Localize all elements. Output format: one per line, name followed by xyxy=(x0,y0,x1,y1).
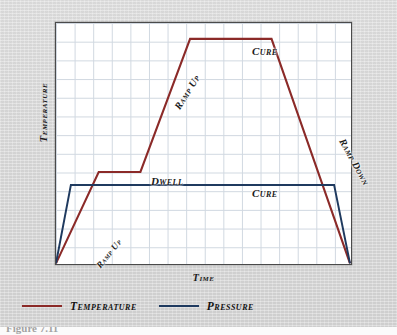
x-axis-title: Time xyxy=(55,272,352,283)
curve-canvas xyxy=(56,23,351,264)
legend-label-temperature: Temperature xyxy=(70,300,137,312)
caption-sliver: Figure 7.11 xyxy=(0,327,397,335)
pressure-curve xyxy=(56,185,350,263)
legend-line-icon-pressure xyxy=(159,305,199,307)
legend-item-temperature: Temperature xyxy=(22,300,137,312)
chart-legend: Temperature Pressure xyxy=(22,300,254,312)
y-axis-title: Temperature xyxy=(38,63,49,163)
plot-area: Cure Cure Dwell Ramp Up Ramp Up Ramp Dow… xyxy=(55,22,352,265)
legend-line-icon-temperature xyxy=(22,305,62,307)
figure-caption: Figure 7.11 xyxy=(6,327,58,334)
annotation-dwell: Dwell xyxy=(151,176,183,187)
legend-item-pressure: Pressure xyxy=(159,300,254,312)
legend-label-pressure: Pressure xyxy=(207,300,254,312)
cure-cycle-figure: Temperature Cure Cure Dwell Ramp Up Ramp… xyxy=(0,0,397,335)
annotation-cure-pressure: Cure xyxy=(252,188,277,199)
temperature-curve xyxy=(56,39,350,263)
annotation-cure-temperature: Cure xyxy=(252,46,277,57)
